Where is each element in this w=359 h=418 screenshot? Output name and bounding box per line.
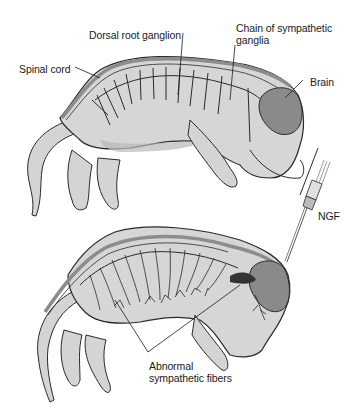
label-dorsal-root-ganglion: Dorsal root ganglion [89,29,181,41]
label-spinal-cord: Spinal cord [19,63,70,75]
diagram-canvas: Dorsal root ganglion Chain of sympatheti… [0,0,359,418]
label-chain-sympathetic-ganglia-line1: Chain of sympathetic [236,22,332,34]
normal-embryo-figure [28,33,304,216]
label-abnormal-sympathetic-fibers-line2: sympathetic fibers [149,372,232,384]
label-ngf: NGF [318,210,340,222]
label-chain-sympathetic-ganglia-line2: ganglia [236,34,269,46]
label-brain: Brain [310,76,334,88]
label-abnormal-sympathetic-fibers-line1: Abnormal [149,360,193,372]
